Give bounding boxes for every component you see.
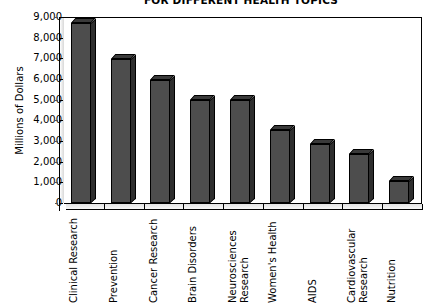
x-axis-tick [183, 204, 184, 210]
bar [230, 17, 250, 203]
y-axis-tick-outer [55, 182, 58, 183]
bar [190, 17, 210, 203]
x-axis-label: Cancer Research [148, 213, 186, 303]
x-axis-tick [382, 204, 383, 210]
x-axis-label-text: Neurosciences Research [227, 213, 265, 303]
y-axis-tick-label: 8,000 [0, 33, 62, 43]
x-axis-label: AIDS [307, 213, 345, 303]
bar [389, 17, 409, 203]
y-axis-tick [59, 100, 63, 101]
bar-side-face [369, 150, 374, 203]
x-axis-tick [342, 204, 343, 210]
bar-side-face [170, 76, 175, 203]
y-axis-tick [59, 79, 63, 80]
bar-chart: FOR DIFFERENT HEALTH TOPICS Millions of … [0, 0, 430, 305]
y-axis-tick-label: 7,000 [0, 53, 62, 63]
bar-front-face [190, 100, 210, 203]
bar-front-face [111, 59, 131, 203]
x-axis-label: Neurosciences Research [227, 213, 265, 303]
y-axis-tick-label: 3,000 [0, 136, 62, 146]
x-axis-tick [263, 204, 264, 210]
x-axis-label-text: Clinical Research [68, 213, 106, 303]
x-axis-label-text: Nutrition [386, 213, 424, 303]
y-axis-tick [59, 141, 63, 142]
y-axis-tick [59, 58, 63, 59]
y-axis-tick [59, 17, 63, 18]
y-axis-tick-outer [55, 120, 58, 121]
chart-title: FOR DIFFERENT HEALTH TOPICS [60, 0, 422, 6]
x-axis-tick [223, 204, 224, 210]
y-axis-tick-outer [55, 17, 58, 18]
bar-front-face [71, 23, 91, 203]
y-axis-tick-outer [55, 79, 58, 80]
y-axis-tick-outer [55, 38, 58, 39]
bar [71, 17, 91, 203]
bar-front-face [349, 154, 369, 203]
bar-front-face [150, 80, 170, 203]
y-axis-tick-label: 6,000 [0, 74, 62, 84]
y-axis-tick-label: 1,000 [0, 177, 62, 187]
y-axis-tick [59, 120, 63, 121]
x-axis-label-text: Prevention [108, 213, 146, 303]
y-axis-tick-label: 2,000 [0, 157, 62, 167]
bar [150, 17, 170, 203]
y-axis-tick-label: 0 [0, 198, 62, 208]
y-axis-tick-label: 5,000 [0, 95, 62, 105]
x-axis-label: Nutrition [386, 213, 424, 303]
y-axis-tick-outer [55, 203, 58, 204]
x-axis-label-text: Cancer Research [148, 213, 186, 303]
bar-side-face [330, 140, 335, 203]
y-axis-tick [59, 182, 63, 183]
x-axis-label: Clinical Research [68, 213, 106, 303]
x-axis-tick [422, 204, 423, 210]
x-axis-label: Brain Disorders [187, 213, 225, 303]
bar-side-face [131, 55, 136, 203]
x-axis-label-text: AIDS [307, 213, 345, 303]
y-axis-tick-label: 4,000 [0, 115, 62, 125]
x-axis-label-text: Cardiovascular Research [346, 213, 384, 303]
y-axis-tick-outer [55, 162, 58, 163]
y-axis-tick-outer [55, 58, 58, 59]
bar [111, 17, 131, 203]
y-axis-tick-label: 9,000 [0, 12, 62, 22]
x-axis-tick [104, 204, 105, 210]
x-axis-label-text: Brain Disorders [187, 213, 225, 303]
y-axis-tick [59, 162, 63, 163]
y-axis-tick [59, 203, 63, 204]
y-axis-tick [59, 38, 63, 39]
y-axis-tick-outer [55, 100, 58, 101]
bar [270, 17, 290, 203]
bar [310, 17, 330, 203]
bar-front-face [230, 100, 250, 203]
bar-front-face [270, 130, 290, 203]
bar-side-face [250, 95, 255, 203]
bar-front-face [310, 144, 330, 203]
bar-side-face [290, 125, 295, 203]
x-axis-label: Cardiovascular Research [346, 213, 384, 303]
bar-front-face [389, 181, 409, 203]
plot-floor [59, 204, 422, 210]
x-axis-label: Prevention [108, 213, 146, 303]
bar-side-face [210, 95, 215, 203]
x-axis-tick [144, 204, 145, 210]
x-axis-tick [303, 204, 304, 210]
y-axis-tick-outer [55, 141, 58, 142]
bar-side-face [91, 19, 96, 203]
x-axis-label: Women's Health [267, 213, 305, 303]
bar [349, 17, 369, 203]
x-axis-label-text: Women's Health [267, 213, 305, 303]
